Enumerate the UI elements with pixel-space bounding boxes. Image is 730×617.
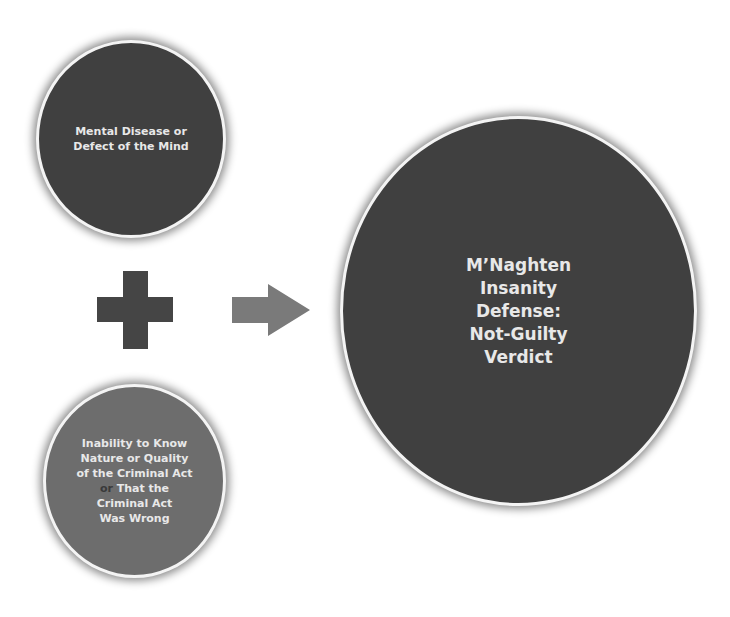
label-line: Not-Guilty: [466, 323, 571, 346]
inability-label: Inability to Know Nature or Quality of t…: [76, 436, 192, 526]
label-line: Verdict: [466, 346, 571, 369]
label-line: Was Wrong: [76, 511, 192, 526]
or-highlight: or: [100, 482, 113, 495]
verdict-label: M’Naghten Insanity Defense: Not-Guilty V…: [466, 254, 571, 369]
label-line: or That the: [76, 481, 192, 496]
label-line: M’Naghten: [466, 254, 571, 277]
label-fragment: That the: [113, 482, 169, 495]
mental-disease-label: Mental Disease or Defect of the Mind: [73, 124, 188, 154]
plus-icon: [97, 271, 173, 349]
label-line: Nature or Quality: [76, 451, 192, 466]
right-arrow-icon: [232, 284, 310, 336]
label-line: Criminal Act: [76, 496, 192, 511]
mental-disease-circle: Mental Disease or Defect of the Mind: [36, 40, 226, 238]
inability-to-know-circle: Inability to Know Nature or Quality of t…: [43, 384, 226, 578]
label-line: Defense:: [466, 300, 571, 323]
mnaghten-verdict-circle: M’Naghten Insanity Defense: Not-Guilty V…: [340, 116, 697, 506]
label-line: of the Criminal Act: [76, 466, 192, 481]
label-line: Inability to Know: [76, 436, 192, 451]
label-line: Defect of the Mind: [73, 139, 188, 154]
label-line: Mental Disease or: [73, 124, 188, 139]
label-line: Insanity: [466, 277, 571, 300]
plus-horizontal-bar: [97, 297, 173, 322]
